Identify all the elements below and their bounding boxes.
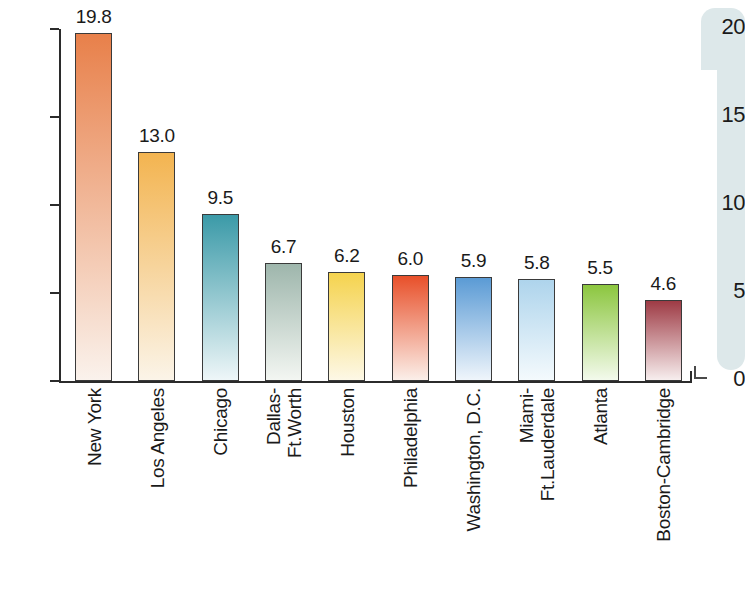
bar-value-label: 5.9 [461,250,487,272]
bar-value-label: 5.5 [587,257,613,279]
category-label-text: Atlanta [590,388,611,588]
bar[interactable] [392,275,429,381]
bar-value-label: 6.0 [397,248,423,270]
bar-slot: 6.0 [392,29,429,381]
bar[interactable] [455,277,492,381]
category-label-text: Boston-Cambridge [653,388,674,588]
bar[interactable] [75,33,112,381]
bar-slot: 9.5 [202,29,239,381]
category-label-text: Los Angeles [146,388,167,588]
y-tick-mark [50,380,59,382]
bar[interactable] [138,152,175,381]
bar-value-label: 6.7 [271,236,297,258]
category-label-text: Chicago [210,388,231,588]
bar[interactable] [518,279,555,381]
bar-slot: 5.8 [518,29,555,381]
bar[interactable] [265,263,302,381]
category-label-text: New York [83,388,104,588]
bar-value-label: 19.8 [76,6,112,28]
y-tick-label: 15 [699,102,745,128]
bar-slot: 19.8 [75,29,112,381]
bar-value-label: 5.8 [524,252,550,274]
y-tick-mark [50,116,59,118]
bar-slot: 5.5 [582,29,619,381]
bar[interactable] [328,272,365,381]
category-label-text: Dallas-Ft.Worth [263,388,305,588]
bar-slot: 13.0 [138,29,175,381]
bar[interactable] [202,214,239,381]
category-label-text: Washington, D.C. [463,388,484,588]
category-label-text: Philadelphia [400,388,421,588]
bar-value-label: 4.6 [651,273,677,295]
bar-slot: 4.6 [645,29,682,381]
bar-value-label: 13.0 [139,125,175,147]
y-tick-mark [50,204,59,206]
bar-value-label: 9.5 [207,187,233,209]
bar-slot: 6.2 [328,29,365,381]
bar-chart: 05101520 19.813.09.56.76.26.05.95.85.54.… [0,0,745,592]
plot-area: 19.813.09.56.76.26.05.95.85.54.6 [59,29,692,381]
bar-value-label: 6.2 [334,245,360,267]
category-label-text: Houston [336,388,357,588]
bar[interactable] [582,284,619,381]
category-label-text: Miami-Ft.Lauderdale [516,388,558,588]
y-tick-label: 10 [699,190,745,216]
x-axis-line [59,381,692,383]
y-tick-mark [50,28,59,30]
y-tick-label: 0 [699,366,745,392]
bar-slot: 5.9 [455,29,492,381]
y-tick-mark [50,292,59,294]
bar[interactable] [645,300,682,381]
y-tick-label: 5 [699,278,745,304]
y-tick-label: 20 [699,14,745,40]
bar-slot: 6.7 [265,29,302,381]
